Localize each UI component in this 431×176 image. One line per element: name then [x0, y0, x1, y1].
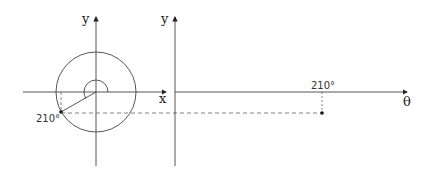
radius-line [61, 92, 96, 112]
left-y-label: y [81, 11, 90, 26]
left-x-label: x [159, 91, 167, 106]
projected-point-marker [320, 111, 324, 115]
right-tick-label: 210° [311, 80, 335, 91]
unit-circle-projection-diagram: y x 210° y θ 210° [0, 0, 431, 176]
right-theta-label: θ [403, 94, 411, 109]
left-angle-label: 210° [36, 113, 60, 124]
right-y-label: y [160, 11, 169, 26]
right-panel: y θ 210° [160, 11, 411, 166]
left-panel: y x 210° [23, 11, 167, 166]
